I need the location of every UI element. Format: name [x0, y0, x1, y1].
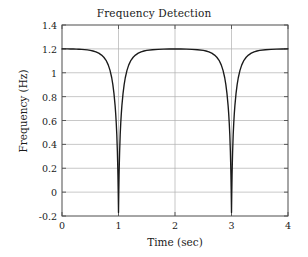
y-axis-label: Frequency (Hz) [17, 31, 29, 191]
x-tick-label: 2 [172, 220, 178, 231]
chart-figure: Frequency Detection -0.200.20.40.60.811.… [0, 0, 308, 257]
gridlines [62, 25, 288, 216]
x-axis-label: Time (sec) [62, 236, 288, 248]
x-tick-label: 0 [59, 220, 65, 231]
y-tick-label: 1.4 [17, 20, 57, 31]
x-tick-label: 4 [285, 220, 291, 231]
y-tick-label: -0.2 [17, 211, 57, 222]
x-tick-label: 3 [228, 220, 234, 231]
x-tick-label: 1 [115, 220, 121, 231]
